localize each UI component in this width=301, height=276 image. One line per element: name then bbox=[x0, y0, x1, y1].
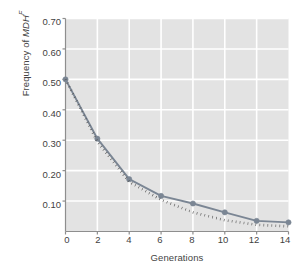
x-tick-label: 14 bbox=[272, 234, 298, 245]
data-point-marker bbox=[254, 218, 259, 223]
y-tick-label: 0.10 bbox=[27, 200, 61, 210]
data-point-marker bbox=[158, 193, 163, 198]
x-tick-label: 4 bbox=[116, 234, 142, 245]
y-tick-label: 0.20 bbox=[27, 170, 61, 180]
y-tick-label: 0.30 bbox=[27, 139, 61, 149]
x-tick-label: 2 bbox=[85, 234, 111, 245]
data-point-marker bbox=[286, 220, 291, 225]
y-tick-label: 0.60 bbox=[27, 48, 61, 58]
x-tick-label: 6 bbox=[147, 234, 173, 245]
y-tick-label: 0.40 bbox=[27, 109, 61, 119]
x-tick-label: 10 bbox=[210, 234, 236, 245]
data-point-marker bbox=[190, 201, 195, 206]
x-axis-title: Generations bbox=[65, 252, 289, 263]
x-tick-label: 12 bbox=[241, 234, 267, 245]
y-tick-label: 0.50 bbox=[27, 78, 61, 88]
x-tick-label: 0 bbox=[54, 234, 80, 245]
y-tick-label: 0.70 bbox=[27, 17, 61, 27]
data-point-marker bbox=[222, 210, 227, 215]
x-tick-label: 8 bbox=[179, 234, 205, 245]
chart-figure: Frequency of MDHF 0.70 0.60 0.50 0.40 0.… bbox=[0, 0, 301, 276]
